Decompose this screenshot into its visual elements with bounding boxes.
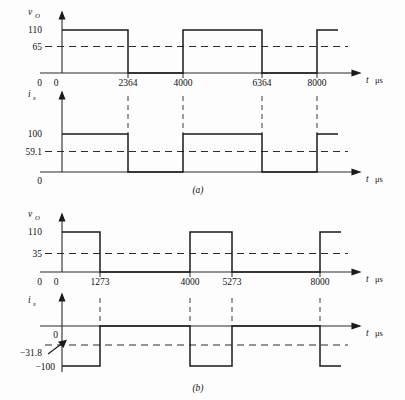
- y-axis-label-subscript: s: [33, 300, 36, 307]
- x-axis-unit: μs: [375, 328, 383, 338]
- y-axis-label-subscript: s: [33, 94, 36, 101]
- y-tick-label: 0: [53, 330, 58, 340]
- x-tick-label: 8000: [311, 277, 330, 287]
- y-tick-label: 59.1: [25, 147, 42, 157]
- waveform-trace: [62, 232, 341, 272]
- y-axis-arrow: [59, 214, 64, 221]
- y-axis-label-subscript: O: [35, 12, 40, 19]
- x-tick-label: 2364: [119, 78, 138, 88]
- x-tick-label: 5273: [223, 277, 242, 287]
- waveform-trace: [62, 134, 338, 172]
- annotation-arrow-head: [59, 341, 66, 348]
- panel-a: v O t μs 110 65 0 0 2364 4000 6364 8000: [25, 7, 383, 196]
- x-tick-label: 8000: [308, 78, 327, 88]
- x-axis-unit: μs: [375, 274, 383, 284]
- y-tick-label: 0: [37, 78, 42, 88]
- y-axis-label-subscript: O: [35, 214, 40, 221]
- waveform-trace: [62, 30, 338, 73]
- y-axis-label: v: [28, 209, 33, 219]
- y-tick-label: 110: [28, 25, 42, 35]
- figure-svg: v O t μs 110 65 0 0 2364 4000 6364 8000: [0, 0, 405, 400]
- panel-b: v O t μs 110 35 0 0 1273 4000 5273 8000: [20, 209, 383, 394]
- y-tick-label: −100: [35, 362, 55, 372]
- y-tick-label: 110: [28, 227, 42, 237]
- x-axis-label: t: [366, 174, 369, 184]
- y-tick-label: 0: [37, 176, 42, 186]
- x-tick-label: 6364: [253, 78, 272, 88]
- x-axis-label: t: [366, 328, 369, 338]
- y-tick-label: 100: [28, 129, 43, 139]
- x-axis-arrow: [352, 269, 360, 275]
- waveform-trace: [62, 326, 341, 366]
- x-tick-label: 0: [54, 277, 59, 287]
- y-axis-label: i: [28, 295, 31, 305]
- chart-source-current-b: i s t μs 0 −31.8 −100: [20, 294, 383, 372]
- x-axis-label: t: [366, 75, 369, 85]
- y-tick-label: 65: [33, 42, 43, 52]
- x-axis-arrow: [352, 70, 360, 76]
- panel-caption: (b): [192, 383, 203, 394]
- x-axis-unit: μs: [375, 75, 383, 85]
- y-axis-label: v: [28, 7, 33, 17]
- x-axis-label: t: [366, 274, 369, 284]
- y-tick-label: −31.8: [20, 348, 42, 358]
- panel-caption: (a): [192, 185, 203, 196]
- chart-output-voltage-b: v O t μs 110 35 0 0 1273 4000 5273 8000: [28, 209, 383, 287]
- x-axis-arrow: [352, 323, 360, 329]
- y-tick-label: 0: [37, 277, 42, 287]
- x-axis-arrow: [352, 169, 360, 175]
- x-axis-unit: μs: [375, 174, 383, 184]
- x-tick-label: 0: [54, 78, 59, 88]
- waveform-figure: v O t μs 110 65 0 0 2364 4000 6364 8000: [0, 0, 405, 400]
- y-axis-label: i: [28, 89, 31, 99]
- y-axis-arrow: [59, 12, 64, 19]
- chart-output-voltage-a: v O t μs 110 65 0 0 2364 4000 6364 8000: [28, 7, 383, 88]
- chart-source-current-a: i s t μs 100 59.1 0: [25, 89, 383, 186]
- y-axis-arrow: [59, 294, 64, 301]
- x-tick-label: 4000: [174, 78, 193, 88]
- y-axis-arrow: [59, 92, 64, 99]
- x-tick-label: 1273: [91, 277, 110, 287]
- x-tick-label: 4000: [181, 277, 200, 287]
- y-tick-label: 35: [33, 249, 43, 259]
